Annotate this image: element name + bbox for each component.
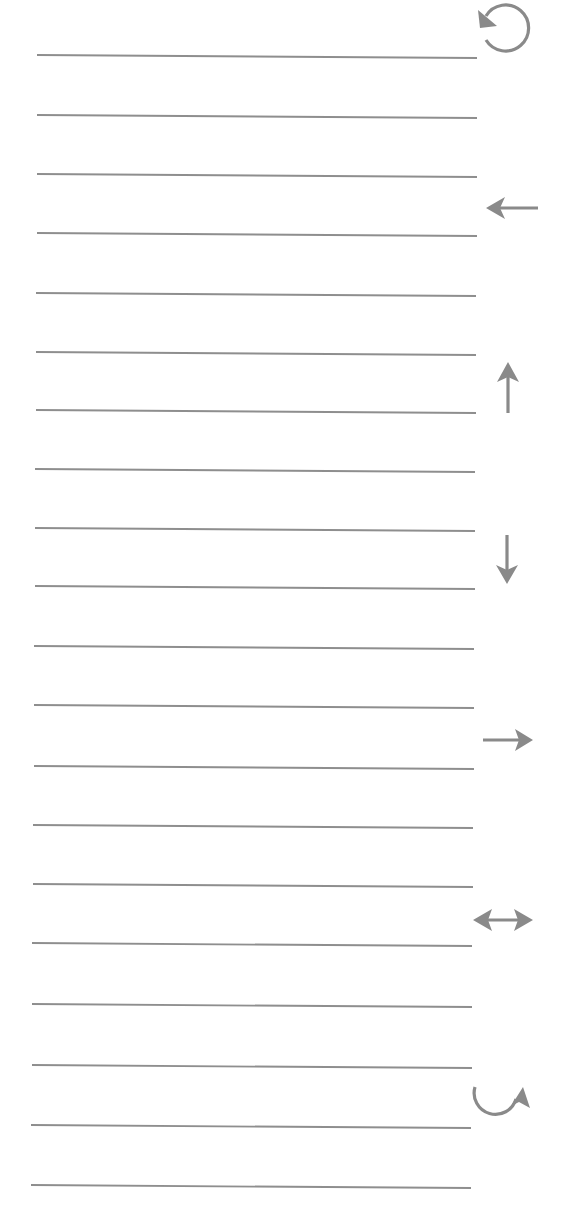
- arrow-right-icon: [483, 729, 533, 751]
- arrow-left-right-icon: [473, 909, 533, 931]
- arrow-up-icon: [497, 362, 519, 413]
- arrow-down-icon: [496, 535, 518, 584]
- lined-worksheet-page: [0, 0, 568, 1227]
- arrow-left-icon: [486, 197, 538, 219]
- direction-icons: [0, 0, 568, 1227]
- rotate-counterclockwise-icon: [478, 5, 529, 51]
- curved-arrow-up-right-icon: [474, 1087, 530, 1114]
